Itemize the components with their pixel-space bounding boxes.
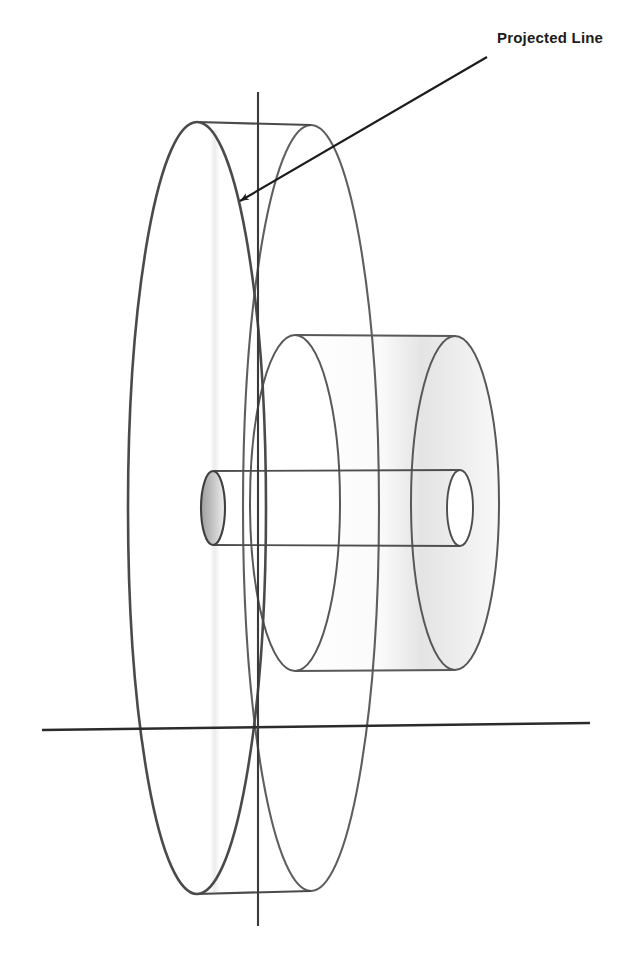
disc-rim-top-tangent	[197, 122, 311, 125]
shaft-front-face-ellipse	[201, 471, 225, 545]
horizontal-axis-line	[42, 723, 590, 730]
shaft-top-tangent	[213, 470, 460, 471]
shaft-bottom-tangent	[213, 545, 460, 546]
wireframe-figure	[0, 0, 639, 965]
projected-line-leader	[240, 57, 487, 201]
hub-bottom-tangent	[295, 670, 455, 671]
projected-line-label: Projected Line	[497, 29, 603, 46]
hub-top-tangent	[295, 335, 455, 336]
flywheel-front-face-ellipse	[128, 122, 266, 894]
diagram-canvas: Projected Line	[0, 0, 639, 965]
shaft-back-face-ellipse	[447, 470, 473, 546]
